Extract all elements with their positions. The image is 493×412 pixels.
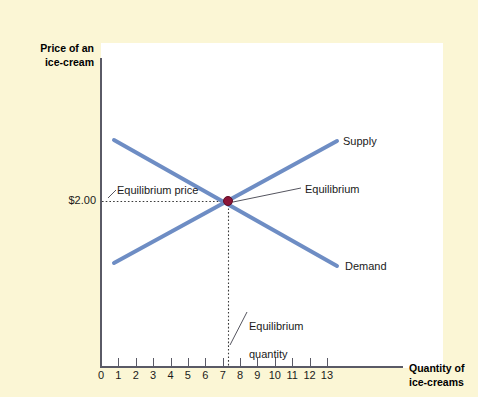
demand-curve-label: Demand — [345, 259, 387, 273]
equilibrium-price-annotation: Equilibrium price — [117, 183, 198, 197]
equilibrium-quantity-annotation: Equilibrium quantity — [249, 305, 303, 361]
x-axis-tick — [101, 358, 102, 367]
y-axis-title-line2: ice-cream — [45, 56, 94, 68]
equilibrium-quantity-line1: Equilibrium — [249, 320, 303, 332]
x-axis-tick — [205, 358, 206, 367]
x-axis-tick — [327, 358, 328, 367]
x-axis-tick — [153, 358, 154, 367]
equilibrium-annotation: Equilibrium — [305, 182, 359, 196]
x-axis-tick-label: 13 — [317, 369, 337, 381]
supply-demand-figure: Price of an ice-cream Quantity of ice-cr… — [0, 0, 493, 412]
x-axis-title-line1: Quantity of — [409, 362, 464, 374]
y-axis-title: Price of an ice-cream — [10, 42, 94, 69]
x-axis-title-line2: ice-creams — [409, 376, 464, 388]
x-axis-title: Quantity of ice-creams — [409, 362, 487, 389]
x-axis-line — [100, 366, 403, 368]
y-axis-title-line1: Price of an — [40, 42, 94, 54]
x-axis-tick — [223, 358, 224, 367]
equilibrium-point-marker — [223, 196, 233, 206]
x-axis-tick — [310, 358, 311, 367]
x-axis-tick — [240, 358, 241, 367]
supply-curve-label: Supply — [343, 134, 377, 148]
x-axis-tick — [136, 358, 137, 367]
x-axis-tick — [171, 358, 172, 367]
y-axis-line — [100, 58, 102, 368]
x-axis-tick — [188, 358, 189, 367]
equilibrium-quantity-line2: quantity — [249, 348, 288, 360]
equilibrium-price-value: $2.00 — [52, 194, 96, 206]
x-axis-tick — [118, 358, 119, 367]
